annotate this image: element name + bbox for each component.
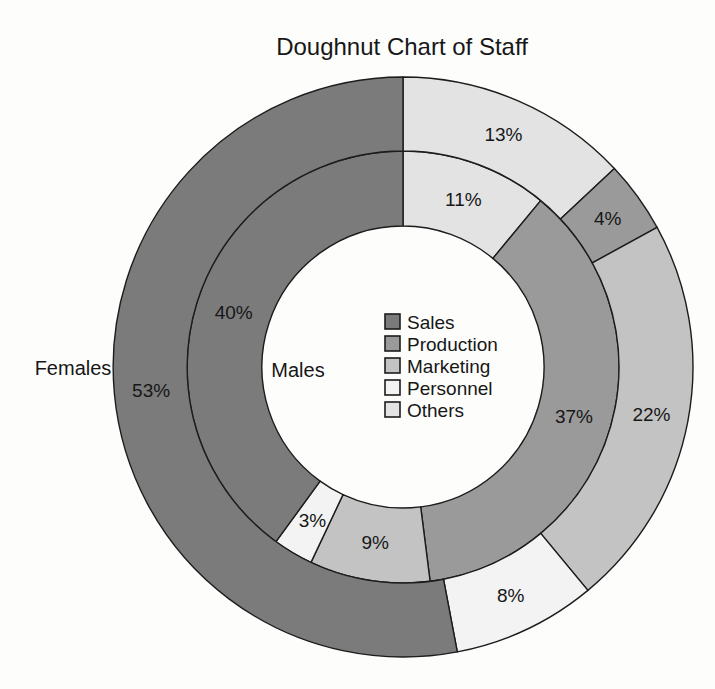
legend-label-sales: Sales bbox=[407, 312, 455, 333]
legend-swatch-others bbox=[385, 402, 400, 417]
legend-item-marketing: Marketing bbox=[385, 356, 490, 377]
legend-item-others: Others bbox=[385, 400, 464, 421]
doughnut-chart: Doughnut Chart of Staff 11%37%9%3%40%13%… bbox=[0, 0, 715, 689]
chart-legend: SalesProductionMarketingPersonnelOthers bbox=[385, 312, 498, 421]
legend-label-others: Others bbox=[407, 400, 464, 421]
legend-swatch-sales bbox=[385, 314, 400, 329]
label-males-marketing: 9% bbox=[361, 532, 389, 553]
legend-label-production: Production bbox=[407, 334, 498, 355]
label-females-others: 13% bbox=[484, 124, 522, 145]
legend-swatch-marketing bbox=[385, 358, 400, 373]
legend-label-marketing: Marketing bbox=[407, 356, 490, 377]
label-males-production: 37% bbox=[555, 406, 593, 427]
inner-ring-label-males: Males bbox=[271, 359, 324, 381]
legend-item-sales: Sales bbox=[385, 312, 455, 333]
chart-title: Doughnut Chart of Staff bbox=[276, 33, 528, 60]
males-ring bbox=[187, 151, 619, 583]
legend-swatch-personnel bbox=[385, 380, 400, 395]
legend-label-personnel: Personnel bbox=[407, 378, 493, 399]
legend-item-production: Production bbox=[385, 334, 498, 355]
legend-item-personnel: Personnel bbox=[385, 378, 493, 399]
chart-segments bbox=[113, 77, 693, 657]
outer-ring-label-females: Females bbox=[35, 357, 112, 379]
label-females-marketing: 22% bbox=[632, 404, 670, 425]
label-females-personnel: 8% bbox=[497, 585, 525, 606]
doughnut-chart-figure: Doughnut Chart of Staff 11%37%9%3%40%13%… bbox=[0, 0, 715, 689]
label-males-personnel: 3% bbox=[299, 510, 327, 531]
label-males-others: 11% bbox=[445, 189, 482, 210]
legend-swatch-production bbox=[385, 336, 400, 351]
label-males-sales: 40% bbox=[215, 302, 253, 323]
label-females-production: 4% bbox=[594, 208, 622, 229]
label-females-sales: 53% bbox=[132, 380, 170, 401]
